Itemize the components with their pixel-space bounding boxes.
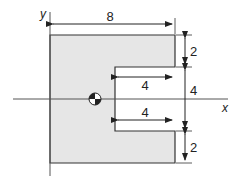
dim-label-slot-upper: 4 [141, 78, 148, 93]
dim-label-slot-height: 4 [190, 83, 197, 98]
dim-label-slot-lower: 4 [141, 105, 148, 120]
x-axis-label: x [221, 101, 229, 115]
centroid-icon [89, 93, 101, 105]
dim-label-bottom-flange: 2 [190, 140, 197, 155]
y-axis-label: y [39, 7, 47, 21]
c-section-diagram: y x 8 2 4 2 4 4 [0, 0, 238, 182]
dim-label-top-flange: 2 [190, 44, 197, 59]
dim-label-width: 8 [106, 9, 113, 24]
